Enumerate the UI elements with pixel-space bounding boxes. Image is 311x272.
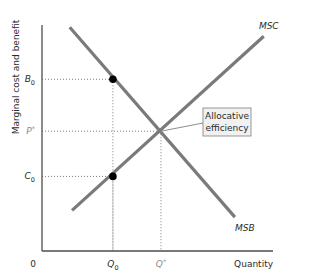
annotation-text-line-2: efficiency [205, 123, 249, 133]
point-cost-at-Q0 [109, 173, 117, 181]
guide-lines [42, 79, 161, 251]
y-tick-labels: B0P*C0 [25, 74, 36, 184]
chart: Marginal cost and benefit Allocative eff… [0, 0, 311, 272]
origin-label: 0 [30, 259, 36, 269]
series-label-msb: MSB [235, 223, 255, 233]
x-tick-labels: Q0Q* [107, 258, 167, 272]
x-axis-label: Quantity [234, 259, 274, 269]
y-tick-label-c0: C0 [25, 171, 35, 184]
point-benefit-at-Q0 [109, 75, 117, 83]
annotation: Allocative efficiency [161, 108, 251, 136]
x-tick-label-q0: Q0 [107, 259, 118, 272]
series-label-msc: MSC [259, 21, 279, 31]
annotation-text-line-1: Allocative [205, 111, 249, 121]
y-axis-label: Marginal cost and benefit [11, 19, 21, 134]
y-tick-label-pstar: P* [26, 125, 35, 137]
x-tick-label-qstar: Q* [156, 258, 167, 270]
y-tick-label-b0: B0 [25, 74, 35, 87]
